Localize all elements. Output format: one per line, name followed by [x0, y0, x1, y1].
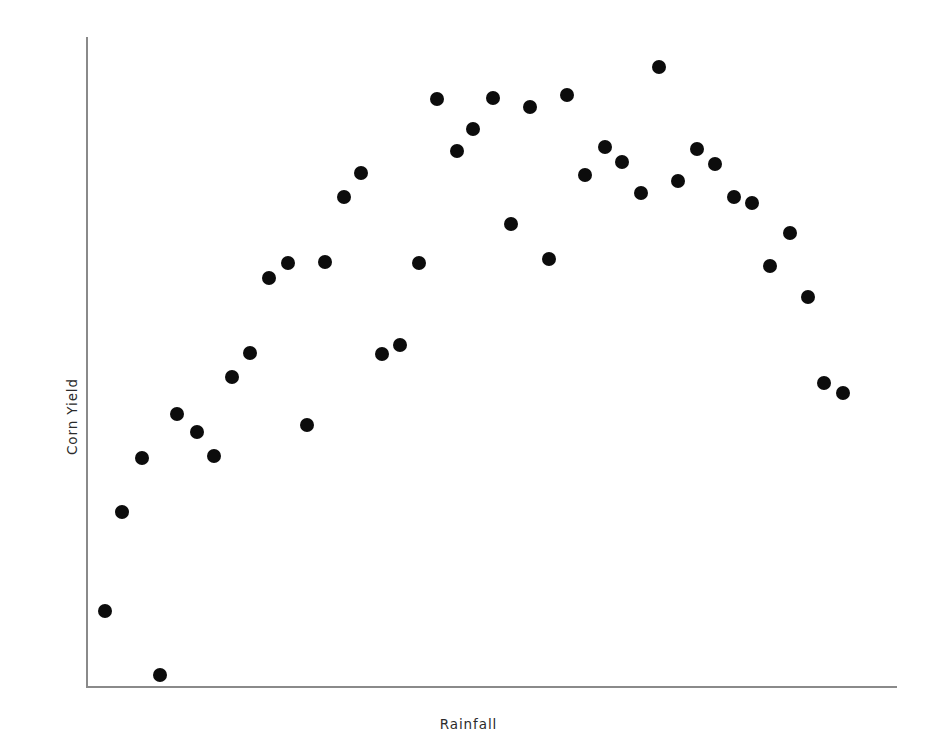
data-point: [598, 140, 612, 154]
plot-area: [0, 0, 937, 747]
x-axis-label: Rainfall: [0, 716, 937, 732]
data-point: [486, 91, 500, 105]
data-point: [466, 122, 480, 136]
data-point: [430, 92, 444, 106]
data-point: [817, 376, 831, 390]
data-point: [634, 186, 648, 200]
data-point: [801, 290, 815, 304]
data-point: [745, 196, 759, 210]
scatter-plot-figure: Corn Yield Rainfall: [0, 0, 937, 747]
data-point: [318, 255, 332, 269]
data-point: [763, 259, 777, 273]
data-point: [652, 60, 666, 74]
data-point: [207, 449, 221, 463]
y-axis-line: [86, 37, 88, 687]
data-point: [337, 190, 351, 204]
data-point: [615, 155, 629, 169]
data-point: [393, 338, 407, 352]
data-point: [542, 252, 556, 266]
data-point: [98, 604, 112, 618]
data-point: [262, 271, 276, 285]
data-point: [300, 418, 314, 432]
data-point: [170, 407, 184, 421]
data-point: [190, 425, 204, 439]
data-point: [225, 370, 239, 384]
data-point: [281, 256, 295, 270]
data-point: [412, 256, 426, 270]
data-point: [783, 226, 797, 240]
data-point: [450, 144, 464, 158]
data-point: [671, 174, 685, 188]
data-point: [243, 346, 257, 360]
data-point: [727, 190, 741, 204]
data-point: [836, 386, 850, 400]
data-point: [560, 88, 574, 102]
data-point: [115, 505, 129, 519]
y-axis-label: Corn Yield: [64, 378, 80, 455]
data-point: [135, 451, 149, 465]
data-point: [690, 142, 704, 156]
data-point: [523, 100, 537, 114]
x-axis-line: [86, 686, 897, 688]
data-point: [375, 347, 389, 361]
data-point: [354, 166, 368, 180]
data-point: [578, 168, 592, 182]
data-point: [153, 668, 167, 682]
data-point: [708, 157, 722, 171]
data-point: [504, 217, 518, 231]
